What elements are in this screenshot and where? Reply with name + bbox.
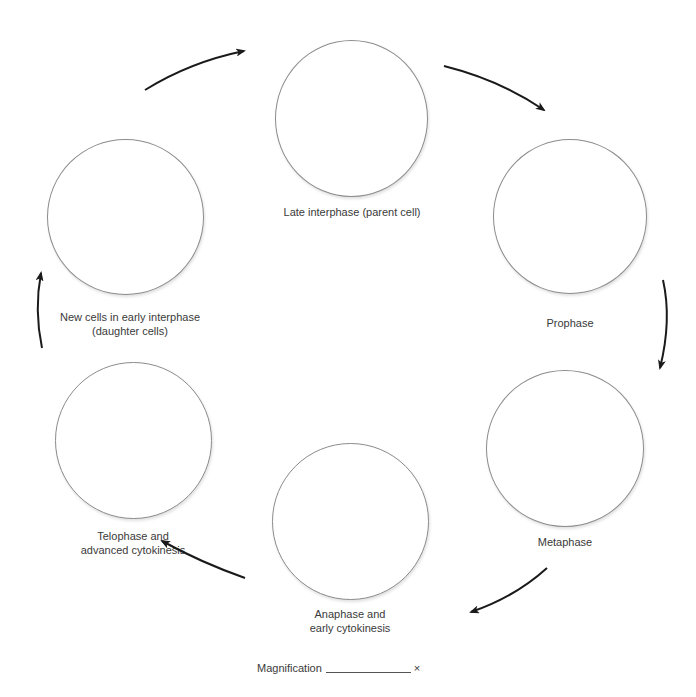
magnification-blank[interactable] (326, 672, 411, 673)
arrow-early-to-late-interphase (145, 51, 244, 90)
magnification-label: Magnification (257, 662, 322, 674)
arrow-late-interphase-to-prophase (444, 66, 544, 110)
arrow-prophase-to-metaphase (660, 280, 667, 368)
cycle-arrows (0, 0, 696, 697)
magnification-suffix: × (414, 662, 420, 674)
arrow-telophase-to-early-interphase (38, 273, 42, 348)
arrow-anaphase-to-telophase (162, 541, 245, 578)
magnification-field[interactable]: Magnification× (257, 662, 420, 674)
arrow-metaphase-to-anaphase (471, 568, 547, 612)
